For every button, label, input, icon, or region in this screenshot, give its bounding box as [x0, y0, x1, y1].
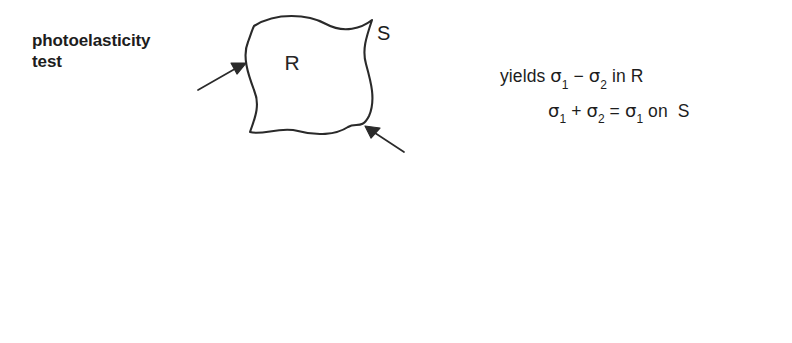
boundary-label-S: S [377, 22, 390, 44]
equations-photoelasticity: yields σ1 − σ2 in R σ1 + σ2 = σ1 on S [500, 62, 689, 131]
label-photoelasticity-test: photoelasticity test [32, 30, 150, 72]
load-arrow-right [365, 126, 404, 152]
load-arrow-left [198, 63, 246, 90]
equation-line-yields-difference: yields σ1 − σ2 in R [500, 62, 689, 97]
equation-line-sum-on-boundary: σ1 + σ2 = σ1 on S [500, 97, 689, 132]
row-laplace-solution: Laplace solution R S know ( σ1 + σ2 ) on… [0, 190, 792, 343]
row-photoelasticity-test: photoelasticity test R S yields σ1 − σ2 … [0, 0, 792, 175]
region-boundary-outline [246, 16, 373, 134]
region-label-R: R [284, 51, 299, 74]
diagram-photoelasticity-region: R S [176, 4, 406, 174]
